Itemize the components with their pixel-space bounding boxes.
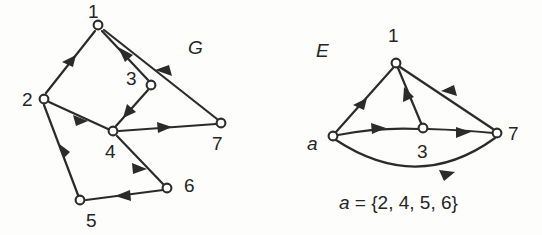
node-7[interactable] bbox=[493, 129, 502, 138]
edge-4-to-3 bbox=[116, 90, 148, 126]
node-3[interactable] bbox=[147, 81, 156, 90]
arrow-head-icon bbox=[371, 123, 386, 134]
equation-operator: = bbox=[350, 192, 372, 213]
graph-diagram-svg: 1 2 3 4 5 6 7 G bbox=[0, 0, 542, 235]
edge-a-to-3 bbox=[338, 123, 419, 135]
edge-7-to-1 bbox=[400, 67, 493, 129]
equation-set: {2, 4, 5, 6} bbox=[371, 192, 458, 213]
node-label-5: 5 bbox=[86, 210, 97, 231]
node-2[interactable] bbox=[40, 95, 49, 104]
equation-variable: a bbox=[339, 192, 350, 213]
arrow-head-icon bbox=[439, 170, 455, 181]
arrow-head-icon bbox=[155, 65, 172, 76]
set-definition-equation: a = {2, 4, 5, 6} bbox=[339, 192, 458, 213]
edge-3-to-1 bbox=[398, 68, 421, 123]
graph-label-g: G bbox=[188, 37, 203, 58]
node-label-3: 3 bbox=[126, 68, 137, 89]
node-label-1: 1 bbox=[88, 1, 99, 22]
arrow-head-icon bbox=[157, 122, 172, 133]
node-label-a: a bbox=[307, 133, 318, 154]
edge-a-to-1 bbox=[336, 68, 393, 132]
edge-4-to-6 bbox=[117, 136, 164, 185]
right-graph-edges bbox=[336, 67, 495, 181]
edge-5-to-2 bbox=[44, 105, 78, 195]
node-6[interactable] bbox=[163, 184, 172, 193]
node-label-6: 6 bbox=[184, 175, 195, 196]
edge-2-to-4 bbox=[49, 102, 108, 129]
figure-canvas: 1 2 3 4 5 6 7 G bbox=[0, 0, 542, 235]
edge-3-to-1 bbox=[102, 31, 148, 80]
node-1[interactable] bbox=[392, 59, 401, 68]
arrow-head-icon bbox=[456, 127, 471, 138]
edge-6-to-5 bbox=[86, 190, 163, 201]
edge-4-to-7 bbox=[119, 122, 216, 133]
node-label-4: 4 bbox=[105, 141, 116, 162]
node-3[interactable] bbox=[419, 124, 428, 133]
node-5[interactable] bbox=[76, 196, 85, 205]
edge-2-to-1 bbox=[46, 31, 95, 93]
node-7[interactable] bbox=[217, 119, 226, 128]
node-a[interactable] bbox=[329, 132, 338, 141]
node-label-7: 7 bbox=[508, 123, 519, 144]
node-label-3: 3 bbox=[417, 141, 428, 162]
node-label-2: 2 bbox=[22, 89, 33, 110]
arrow-head-icon bbox=[441, 85, 457, 96]
arrow-head-icon bbox=[115, 190, 131, 201]
arrow-head-icon bbox=[118, 47, 133, 62]
edge-3-to-7 bbox=[428, 127, 493, 138]
node-label-1: 1 bbox=[388, 25, 399, 46]
graph-label-e: E bbox=[316, 40, 329, 61]
edge-a-to-7 bbox=[336, 138, 495, 181]
node-4[interactable] bbox=[109, 127, 118, 136]
arrow-head-icon bbox=[353, 98, 367, 110]
arrow-head-icon bbox=[58, 143, 70, 158]
node-label-7: 7 bbox=[212, 133, 223, 154]
